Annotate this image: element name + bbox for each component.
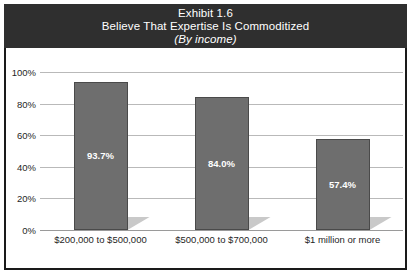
y-axis-tick-label: 0% (22, 225, 36, 236)
bar-value-label: 84.0% (196, 158, 248, 169)
x-axis-category-labels: $200,000 to $500,000$500,000 to $700,000… (40, 234, 403, 254)
plot-area: 93.7%84.0%57.4% (40, 72, 403, 230)
y-axis-tick-label: 100% (12, 67, 36, 78)
chart-frame: 0%20%40%60%80%100% 93.7%84.0%57.4% $200,… (4, 48, 407, 270)
bar[interactable]: 57.4% (316, 139, 370, 230)
bar-value-label: 93.7% (75, 150, 127, 161)
plot-wrapper: 0%20%40%60%80%100% 93.7%84.0%57.4% $200,… (6, 48, 409, 270)
bar-value-label: 57.4% (317, 179, 369, 190)
bar-slot: 57.4% (316, 72, 370, 230)
chart-title-band: Exhibit 1.6 Believe That Expertise Is Co… (4, 4, 407, 48)
bar-shadow (128, 217, 150, 230)
x-axis-category-label: $200,000 to $500,000 (54, 234, 146, 245)
y-axis-tick-label: 40% (17, 161, 36, 172)
bar[interactable]: 93.7% (74, 82, 128, 230)
bar-slot: 84.0% (195, 72, 249, 230)
bar-shadow (370, 217, 392, 230)
y-axis-tick-labels: 0%20%40%60%80%100% (6, 72, 36, 230)
y-axis-tick-label: 60% (17, 130, 36, 141)
gridline (40, 230, 403, 231)
y-axis-tick-label: 80% (17, 98, 36, 109)
bar-shadow (249, 217, 271, 230)
chart-title-line-2: Believe That Expertise Is Commoditized (102, 20, 309, 33)
bar-slot: 93.7% (74, 72, 128, 230)
chart-title-line-1: Exhibit 1.6 (178, 7, 233, 20)
x-axis-category-label: $1 million or more (305, 234, 381, 245)
chart-subtitle: (By income) (174, 33, 236, 46)
bar[interactable]: 84.0% (195, 97, 249, 230)
x-axis-category-label: $500,000 to $700,000 (175, 234, 267, 245)
y-axis-tick-label: 20% (17, 193, 36, 204)
exhibit-chart: Exhibit 1.6 Believe That Expertise Is Co… (0, 0, 411, 274)
